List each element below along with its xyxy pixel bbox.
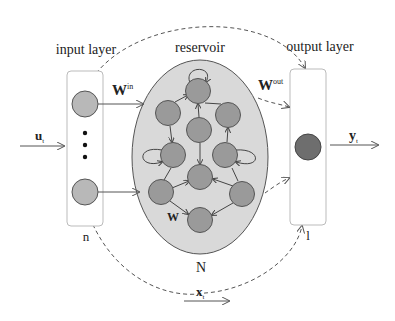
input-node [72, 91, 98, 117]
reservoir-label: reservoir [175, 40, 225, 55]
n-label: n [83, 229, 90, 244]
output-layer-label: output layer [286, 39, 354, 54]
input-node [72, 179, 98, 205]
ellipsis-dot [83, 131, 87, 135]
ellipsis-dot [83, 155, 87, 159]
reservoir-node [213, 143, 238, 168]
wout-arrow-bottom [265, 178, 289, 193]
wout-arrow-top [258, 98, 289, 107]
reservoir-node [216, 103, 241, 128]
ellipsis-dot [83, 143, 87, 147]
reservoir-node [188, 165, 213, 190]
reservoir-node [230, 182, 255, 207]
w-label: W [167, 210, 179, 224]
reservoir-node [149, 180, 174, 205]
x-t-label: xt [196, 284, 205, 301]
output-node [295, 134, 321, 160]
u-t-label: ut [35, 128, 44, 145]
l-label: l [306, 228, 310, 243]
input-layer-label: input layer [56, 42, 117, 57]
reservoir-node [161, 143, 186, 168]
N-label: N [196, 260, 206, 275]
w-in-label: Win [112, 82, 133, 98]
reservoir-node [186, 79, 211, 104]
reservoir-node [188, 208, 213, 233]
echo-state-network-diagram: input layer reservoir output layer Win W… [0, 0, 395, 321]
y-t-label: yt [349, 128, 358, 145]
reservoir-node [187, 118, 212, 143]
reservoir-node [156, 101, 181, 126]
w-out-label: Wout [258, 77, 284, 93]
